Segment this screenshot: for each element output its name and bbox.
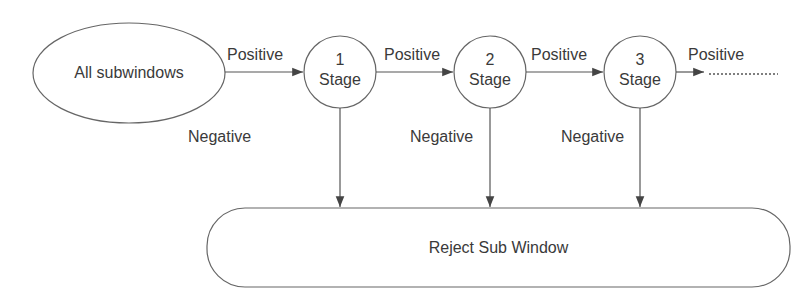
positive-label-2: Positive [531,47,587,63]
stage-3-number: 3 [604,50,676,70]
stage-1-text: Stage [304,70,376,90]
stage-1-label: 1 Stage [304,50,376,90]
all-subwindows-label: All subwindows [33,63,225,83]
positive-label-0: Positive [227,47,283,63]
stage-1-number: 1 [304,50,376,70]
negative-label-3: Negative [561,129,624,145]
positive-label-3: Positive [688,47,744,63]
stage-3-text: Stage [604,70,676,90]
positive-label-1: Positive [384,47,440,63]
stage-3-label: 3 Stage [604,50,676,90]
negative-label-2: Negative [410,129,473,145]
stage-2-number: 2 [454,50,526,70]
negative-label-1: Negative [188,129,251,145]
stage-2-text: Stage [454,70,526,90]
stage-2-label: 2 Stage [454,50,526,90]
reject-sub-window-label: Reject Sub Window [207,238,790,258]
